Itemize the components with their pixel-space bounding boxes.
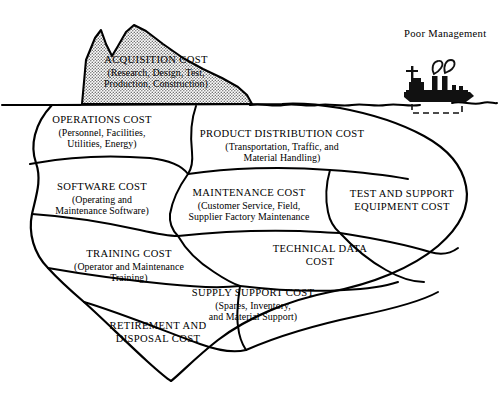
- maintenance-cost-heading: MAINTENANCE COST: [168, 187, 330, 200]
- label-product-distribution-cost: PRODUCT DISTRIBUTION COST (Transportatio…: [198, 128, 366, 164]
- label-supply-support-cost: SUPPLY SUPPORT COST (Spares, Inventory, …: [178, 287, 328, 323]
- operations-cost-detail-1: (Personnel, Facilities,: [30, 127, 174, 139]
- iceberg-cost-diagram: ACQUISITION COST (Research, Design, Test…: [0, 0, 499, 397]
- smoke-puffs-icon: [433, 60, 455, 74]
- software-cost-heading: SOFTWARE COST: [28, 181, 176, 194]
- retirement-and-disposal-cost-heading: RETIREMENT AND: [92, 320, 224, 333]
- product-distribution-cost-heading: PRODUCT DISTRIBUTION COST: [198, 128, 366, 141]
- technical-data-cost-heading: TECHNICAL DATA: [262, 243, 378, 256]
- operations-cost-heading: OPERATIONS COST: [30, 114, 174, 127]
- retirement-and-disposal-cost-detail-1: DISPOSAL COST: [92, 333, 224, 346]
- poor-management-label: Poor Management: [404, 28, 486, 39]
- label-retirement-and-disposal-cost: RETIREMENT AND DISPOSAL COST: [92, 320, 224, 345]
- training-cost-heading: TRAINING COST: [50, 248, 208, 261]
- acquisition-cost-heading: ACQUISITION COST: [88, 54, 224, 67]
- software-cost-detail-1: (Operating and: [28, 194, 176, 206]
- label-software-cost: SOFTWARE COST (Operating and Maintenance…: [28, 181, 176, 217]
- acquisition-cost-detail-2: Production, Construction): [88, 78, 224, 90]
- training-cost-detail-1: (Operator and Maintenance: [50, 261, 208, 273]
- label-training-cost: TRAINING COST (Operator and Maintenance …: [50, 248, 208, 284]
- label-technical-data-cost: TECHNICAL DATA COST: [262, 243, 378, 268]
- maintenance-cost-detail-1: (Customer Service, Field,: [168, 200, 330, 212]
- operations-cost-detail-2: Utilities, Energy): [30, 138, 174, 150]
- label-operations-cost: OPERATIONS COST (Personnel, Facilities, …: [30, 114, 174, 150]
- training-cost-detail-2: Training): [50, 272, 208, 284]
- label-test-and-support-equipment-cost: TEST AND SUPPORT EQUIPMENT COST: [336, 188, 468, 213]
- technical-data-cost-detail-1: COST: [262, 256, 378, 269]
- acquisition-cost-detail-1: (Research, Design, Test,: [88, 67, 224, 79]
- facet-divider-left-notch: [30, 163, 36, 164]
- supply-support-cost-detail-1: (Spares, Inventory,: [178, 300, 328, 312]
- label-acquisition-cost: ACQUISITION COST (Research, Design, Test…: [88, 54, 224, 90]
- test-and-support-equipment-cost-heading: TEST AND SUPPORT: [336, 188, 468, 201]
- product-distribution-cost-detail-2: Material Handling): [198, 152, 366, 164]
- maintenance-cost-detail-2: Supplier Factory Maintenance: [168, 211, 330, 223]
- label-maintenance-cost: MAINTENANCE COST (Customer Service, Fiel…: [168, 187, 330, 223]
- test-and-support-equipment-cost-detail-1: EQUIPMENT COST: [336, 201, 468, 214]
- supply-support-cost-heading: SUPPLY SUPPORT COST: [178, 287, 328, 300]
- software-cost-detail-2: Maintenance Software): [28, 205, 176, 217]
- product-distribution-cost-detail-1: (Transportation, Traffic, and: [198, 141, 366, 153]
